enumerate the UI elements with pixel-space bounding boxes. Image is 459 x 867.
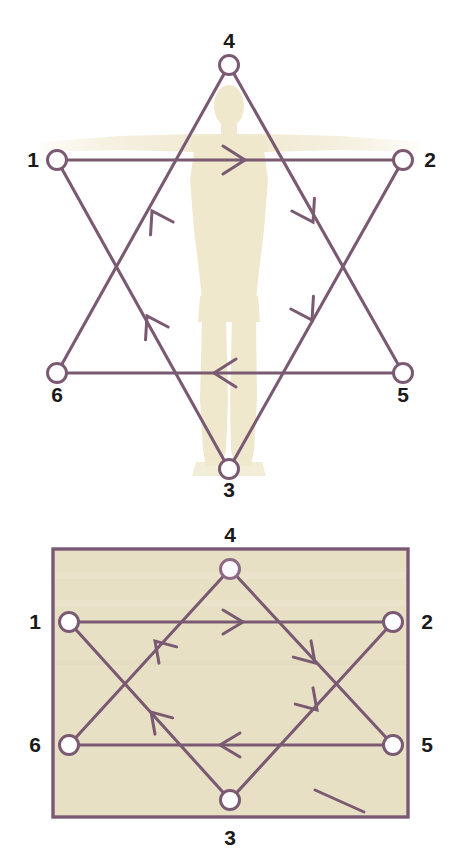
rect-node-1[interactable] xyxy=(60,613,79,632)
rect-node-label-6: 6 xyxy=(29,733,41,756)
rect-node-label-2: 2 xyxy=(421,610,433,633)
panel-hexagram-in-rectangle: 1 2 3 4 5 6 xyxy=(0,510,459,867)
rect-node-label-4: 4 xyxy=(224,523,236,546)
node-1[interactable] xyxy=(48,151,67,170)
rect-node-label-5: 5 xyxy=(421,733,433,756)
rect-node-label-1: 1 xyxy=(29,610,41,633)
node-label-1: 1 xyxy=(27,148,39,171)
node-label-5: 5 xyxy=(397,383,409,406)
node-3[interactable] xyxy=(220,460,239,479)
rect-node-5[interactable] xyxy=(384,736,403,755)
node-6[interactable] xyxy=(48,364,67,383)
node-label-6: 6 xyxy=(51,383,63,406)
rect-node-4[interactable] xyxy=(221,560,240,579)
node-2[interactable] xyxy=(394,151,413,170)
node-label-2: 2 xyxy=(424,148,436,171)
rect-node-6[interactable] xyxy=(60,736,79,755)
panel-hexagram-over-body: 1 2 3 4 5 6 xyxy=(0,0,459,510)
arrowhead-left-upper xyxy=(141,205,173,235)
node-label-4: 4 xyxy=(223,29,235,52)
arrowhead-left-lower xyxy=(136,310,168,340)
node-5[interactable] xyxy=(394,364,413,383)
hexagram-rect-svg: 1 2 3 4 5 6 xyxy=(0,510,459,867)
rect-node-3[interactable] xyxy=(221,791,240,810)
rect-node-label-3: 3 xyxy=(224,826,236,849)
enclosing-rectangle xyxy=(53,549,408,817)
rect-node-2[interactable] xyxy=(384,613,403,632)
hexagram-body-svg: 1 2 3 4 5 6 xyxy=(0,0,459,510)
node-label-3: 3 xyxy=(223,478,235,501)
human-body-silhouette xyxy=(40,85,420,476)
node-4[interactable] xyxy=(220,56,239,75)
figure-root: 1 2 3 4 5 6 xyxy=(0,0,459,867)
